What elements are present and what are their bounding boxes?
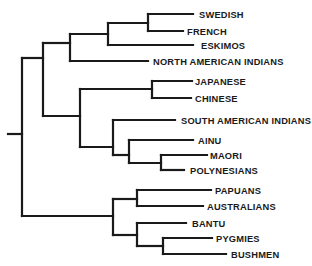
leaf-label-ainu: AINU: [198, 136, 222, 146]
leaf-label-japanese: JAPANESE: [195, 77, 246, 87]
dendrogram-figure: SWEDISHFRENCHESKIMOSNORTH AMERICAN INDIA…: [0, 0, 312, 266]
leaf-label-french: FRENCH: [187, 27, 227, 37]
leaf-label-north-american-indians: NORTH AMERICAN INDIANS: [153, 57, 284, 67]
leaf-label-polynesians: POLYNESIANS: [190, 166, 258, 176]
leaf-label-bantu: BANTU: [192, 219, 226, 229]
dendrogram-svg: SWEDISHFRENCHESKIMOSNORTH AMERICAN INDIA…: [0, 0, 312, 266]
leaf-label-eskimos: ESKIMOS: [201, 41, 245, 51]
leaf-label-swedish: SWEDISH: [199, 10, 244, 20]
leaf-label-chinese: CHINESE: [195, 94, 238, 104]
leaf-label-bushmen: BUSHMEN: [231, 250, 279, 260]
leaf-label-maori: MAORI: [210, 151, 242, 161]
leaf-label-pygmies: PYGMIES: [216, 234, 260, 244]
leaf-label-australians: AUSTRALIANS: [207, 202, 276, 212]
leaf-label-papuans: PAPUANS: [215, 186, 261, 196]
leaf-label-south-american-indians: SOUTH AMERICAN INDIANS: [181, 116, 311, 126]
